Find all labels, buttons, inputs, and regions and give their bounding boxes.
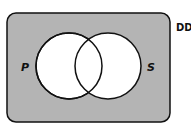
universe-label: DD bbox=[176, 22, 191, 33]
set-p-label: P bbox=[21, 61, 29, 74]
set-s-label: S bbox=[147, 61, 155, 74]
set-s-circle bbox=[75, 33, 141, 99]
venn-diagram: P S DD bbox=[0, 0, 191, 124]
